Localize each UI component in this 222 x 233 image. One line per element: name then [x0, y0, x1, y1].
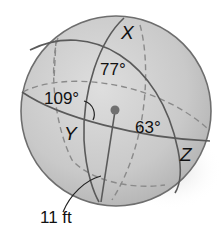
angle-label-z: 63°	[135, 119, 161, 136]
sphere-drawing	[0, 0, 222, 233]
vertex-label-z: Z	[180, 145, 192, 164]
radius-label: 11 ft	[40, 209, 72, 226]
angle-label-x: 77°	[100, 61, 126, 78]
angle-label-y: 109°	[44, 90, 79, 107]
center-point	[111, 106, 120, 115]
vertex-label-y: Y	[64, 124, 77, 143]
vertex-label-x: X	[121, 23, 134, 42]
sphere-diagram: X Y Z 77° 109° 63° 11 ft	[0, 0, 222, 233]
